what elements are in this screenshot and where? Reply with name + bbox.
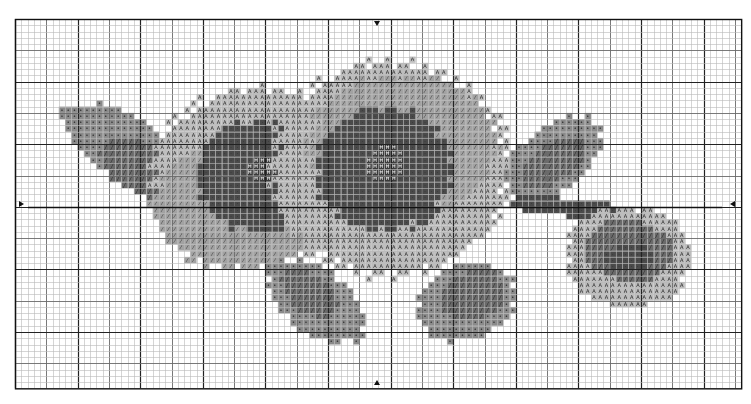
right-center-arrow-icon xyxy=(730,201,735,207)
top-center-arrow-icon xyxy=(374,21,380,26)
cross-stitch-chart xyxy=(0,0,751,404)
left-center-arrow-icon xyxy=(19,201,24,207)
bottom-center-arrow-icon xyxy=(374,380,380,385)
